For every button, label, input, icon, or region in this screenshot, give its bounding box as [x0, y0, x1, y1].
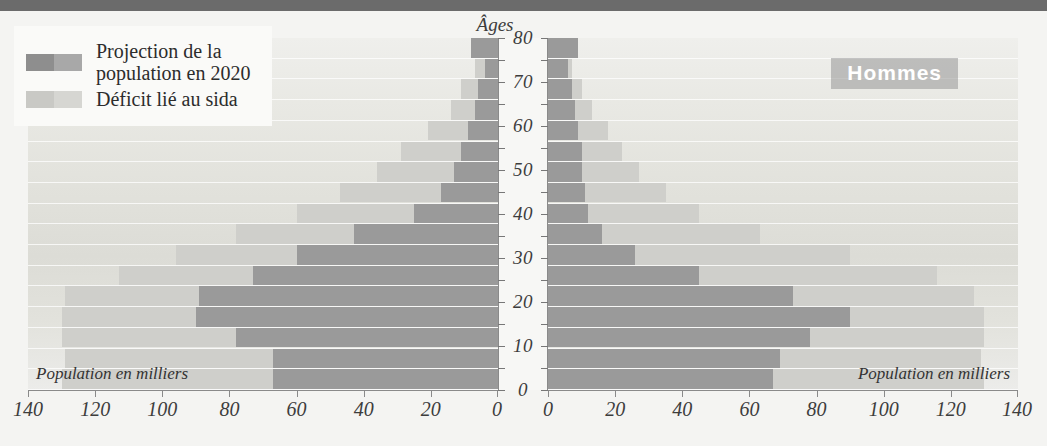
top-band [0, 0, 1047, 11]
bar-segment-projection [548, 162, 582, 182]
bar-segment-projection [441, 183, 498, 203]
x-tick [364, 390, 365, 397]
bar-segment-projection [253, 266, 498, 286]
bar-segment-projection [548, 307, 850, 327]
women-x-axis [548, 390, 1018, 391]
bar-segment-projection [297, 245, 498, 265]
bar-segment-projection [199, 286, 498, 306]
bar-segment-projection [548, 349, 780, 369]
bar-segment-projection [548, 38, 578, 58]
row-separator [548, 182, 1018, 183]
row-separator [548, 244, 1018, 245]
age-tick-label: 10 [498, 335, 548, 357]
x-tick [884, 390, 885, 397]
row-separator [28, 223, 498, 224]
legend-label-projection: Projection de la population en 2020 [96, 41, 250, 84]
legend-swatch-projection-icon [26, 54, 82, 71]
bar-segment-projection [236, 328, 498, 348]
row-separator [548, 161, 1018, 162]
bar-row [548, 224, 1018, 244]
women-bars-panel [548, 38, 1018, 390]
bar-row [548, 121, 1018, 141]
bar-row [548, 266, 1018, 286]
legend-item-projection: Projection de la population en 2020 [26, 41, 250, 84]
row-separator [548, 265, 1018, 266]
bar-segment-projection [548, 100, 575, 120]
bar-segment-projection [548, 286, 793, 306]
row-separator [28, 161, 498, 162]
bar-segment-projection [548, 266, 699, 286]
bar-segment-projection [548, 245, 635, 265]
x-tick-label: 80 [807, 398, 827, 421]
pop-note-right: Population en milliers [858, 364, 1010, 384]
x-tick-label: 140 [1002, 398, 1032, 421]
row-separator [28, 327, 498, 328]
row-separator [28, 306, 498, 307]
bar-segment-projection [414, 204, 498, 224]
bar-row [548, 162, 1018, 182]
x-tick [951, 390, 952, 397]
row-separator [548, 327, 1018, 328]
x-tick-label: 40 [672, 398, 692, 421]
row-separator [548, 203, 1018, 204]
age-tick-label: 30 [498, 247, 548, 269]
bar-segment-projection [548, 224, 602, 244]
x-tick [1017, 390, 1018, 397]
age-tick-label: 60 [498, 115, 548, 137]
legend-label-projection-line1: Projection de la [96, 40, 222, 62]
x-tick [297, 390, 298, 397]
bar-row [548, 142, 1018, 162]
row-separator [548, 306, 1018, 307]
bar-segment-projection [461, 142, 498, 162]
x-tick-label: 100 [869, 398, 899, 421]
bar-row [28, 204, 498, 224]
bar-row [28, 162, 498, 182]
bar-row [28, 307, 498, 327]
bar-row [28, 142, 498, 162]
women-bar-rows [548, 38, 1018, 390]
row-separator [28, 203, 498, 204]
bar-row [28, 328, 498, 348]
bar-segment-projection [273, 369, 498, 389]
bar-row [548, 38, 1018, 58]
row-separator [548, 348, 1018, 349]
row-separator [548, 120, 1018, 121]
bar-row [28, 266, 498, 286]
bar-row [28, 245, 498, 265]
bar-segment-projection [454, 162, 498, 182]
bar-segment-projection [354, 224, 498, 244]
bar-segment-projection [468, 121, 498, 141]
x-tick [817, 390, 818, 397]
bar-row [548, 204, 1018, 224]
x-tick-label: 80 [219, 398, 239, 421]
x-tick [431, 390, 432, 397]
x-tick-label: 20 [421, 398, 441, 421]
x-tick-label: 100 [147, 398, 177, 421]
row-separator [28, 141, 498, 142]
x-tick [615, 390, 616, 397]
bar-segment-projection [548, 369, 773, 389]
bar-segment-projection [548, 121, 578, 141]
x-tick [749, 390, 750, 397]
row-separator [28, 244, 498, 245]
bar-row [28, 286, 498, 306]
x-tick-label: 60 [287, 398, 307, 421]
bar-segment-projection [273, 349, 498, 369]
row-separator [28, 348, 498, 349]
bar-segment-projection [471, 38, 498, 58]
bar-segment-projection [548, 204, 588, 224]
age-tick-label: 70 [498, 71, 548, 93]
x-tick-label: 20 [605, 398, 625, 421]
men-label: Hommes [831, 58, 958, 89]
x-tick [28, 390, 29, 397]
x-tick [162, 390, 163, 397]
age-tick-label: 40 [498, 203, 548, 225]
legend-label-deficit: Déficit lié au sida [96, 89, 238, 111]
bar-segment-projection [548, 328, 810, 348]
bar-row [548, 100, 1018, 120]
bar-row [28, 183, 498, 203]
pop-note-left: Population en milliers [36, 364, 188, 384]
bar-segment-projection [548, 142, 582, 162]
age-tick-label: 0 [498, 379, 548, 401]
x-tick [229, 390, 230, 397]
